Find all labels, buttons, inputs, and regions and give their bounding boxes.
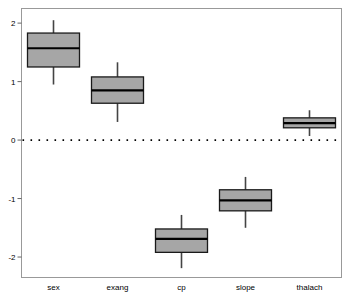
y-tick-label: 2 — [11, 19, 16, 28]
x-tick-label: sex — [47, 283, 59, 292]
plot-canvas: 210-1-2 sexexangcpslopethalach — [0, 0, 349, 299]
y-tick-label: 0 — [11, 136, 16, 145]
y-tick-label: -1 — [8, 195, 16, 204]
box-body — [156, 229, 208, 252]
boxplot-figure: 210-1-2 sexexangcpslopethalach — [0, 0, 349, 299]
x-tick-label: cp — [177, 283, 186, 292]
box-body — [28, 33, 80, 67]
y-tick-label: -2 — [8, 253, 16, 262]
x-tick-label: exang — [107, 283, 129, 292]
x-tick-label: slope — [236, 283, 256, 292]
y-tick-label: 1 — [11, 78, 16, 87]
x-tick-label: thalach — [297, 283, 323, 292]
